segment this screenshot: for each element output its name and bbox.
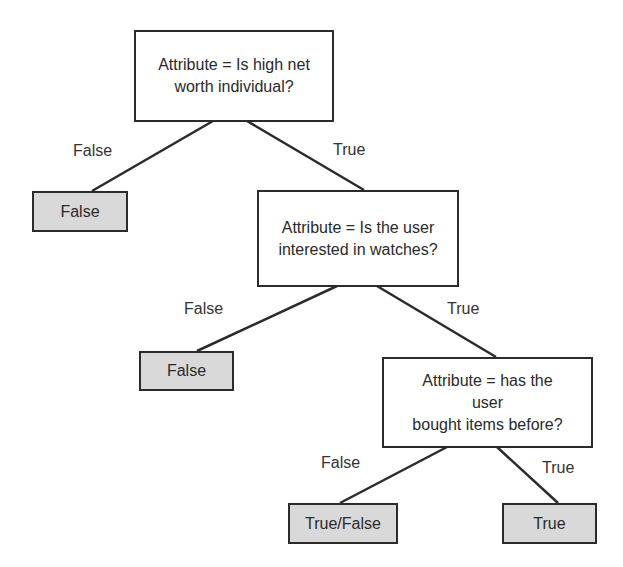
node-text: Attribute = Is the user — [278, 217, 437, 239]
edge-node2-false — [197, 286, 337, 351]
leaf-node-false-1: False — [32, 191, 128, 232]
edge-label-root-true: True — [333, 141, 365, 159]
node-text: Attribute = has the — [412, 370, 562, 392]
leaf-node-true: True — [502, 503, 597, 544]
node-text: Attribute = Is high net — [158, 54, 310, 76]
leaf-text: True/False — [305, 513, 381, 535]
leaf-text: True — [533, 513, 565, 535]
decision-node-root: Attribute = Is high net worth individual… — [134, 30, 334, 122]
edge-label-node3-false: False — [321, 454, 360, 472]
node-text: interested in watches? — [278, 239, 437, 261]
edge-node2-true — [377, 286, 496, 357]
leaf-node-false-2: False — [139, 351, 234, 391]
leaf-text: False — [167, 360, 206, 382]
leaf-text: False — [60, 201, 99, 223]
edge-label-node2-true: True — [447, 300, 479, 318]
leaf-node-true-false: True/False — [288, 503, 398, 544]
edge-label-node2-false: False — [184, 300, 223, 318]
edge-label-root-false: False — [73, 142, 112, 160]
decision-node-bought-before: Attribute = has the user bought items be… — [382, 357, 593, 448]
decision-node-watches: Attribute = Is the user interested in wa… — [257, 190, 459, 287]
node-text: bought items before? — [412, 414, 562, 436]
node-text: worth individual? — [158, 76, 310, 98]
edge-label-node3-true: True — [542, 459, 574, 477]
node-text: user — [412, 392, 562, 414]
